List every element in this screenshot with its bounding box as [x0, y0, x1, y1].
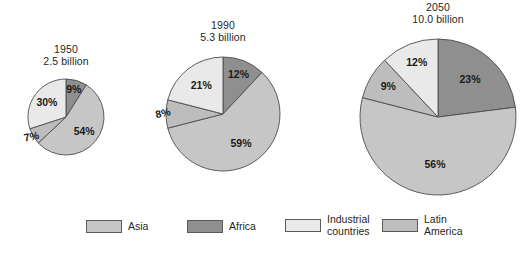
legend-item-asia[interactable]: Asia — [86, 220, 148, 233]
pie-slice-label-latin-america: 9% — [381, 80, 397, 92]
legend-label-asia: Asia — [128, 221, 148, 233]
pie-slice-label-africa: 12% — [228, 68, 250, 80]
population-pie-chart-figure: 1950 2.5 billion 1990 5.3 billion 2050 1… — [0, 0, 525, 254]
pie-title-2050-year: 2050 — [372, 1, 504, 13]
pie-slice-label-industrial-countries: 30% — [36, 96, 58, 108]
pie-slice-label-africa: 23% — [459, 73, 481, 85]
pie-title-1950-year: 1950 — [0, 43, 132, 55]
legend-item-africa[interactable]: Africa — [187, 220, 256, 233]
pie-title-1990-year: 1990 — [157, 19, 289, 31]
pie-slice-label-asia: 59% — [230, 137, 252, 149]
pie-slice-label-asia: 56% — [424, 158, 446, 170]
pie-chart-1950: 9%54%7%30% — [14, 65, 118, 169]
pie-slice-label-africa: 9% — [66, 83, 82, 95]
pie-slice-label-industrial-countries: 12% — [406, 56, 428, 68]
pie-title-1950: 1950 2.5 billion — [0, 43, 132, 67]
legend-swatch-latin-america — [382, 219, 418, 232]
legend-swatch-africa — [187, 220, 223, 233]
legend-swatch-industrial-countries — [285, 219, 321, 232]
pie-chart-2050: 23%56%9%12% — [346, 25, 525, 209]
pie-title-1990: 1990 5.3 billion — [157, 19, 289, 43]
pie-title-1990-population: 5.3 billion — [157, 31, 289, 43]
pie-title-2050-population: 10.0 billion — [372, 13, 504, 25]
pie-title-2050: 2050 10.0 billion — [372, 1, 504, 25]
legend-item-latin-america[interactable]: Latin America — [382, 214, 463, 237]
legend-label-africa: Africa — [229, 221, 256, 233]
legend-label-industrial-countries: Industrial countries — [327, 214, 370, 237]
pie-slice-label-asia: 54% — [74, 125, 96, 137]
chart-legend: AsiaAfricaIndustrial countriesLatin Amer… — [86, 212, 446, 244]
legend-item-industrial-countries[interactable]: Industrial countries — [285, 214, 370, 237]
legend-swatch-asia — [86, 220, 122, 233]
pie-slice-label-industrial-countries: 21% — [191, 79, 213, 91]
pie-chart-1990: 12%59%8%21% — [152, 43, 294, 185]
legend-label-latin-america: Latin America — [424, 214, 463, 237]
